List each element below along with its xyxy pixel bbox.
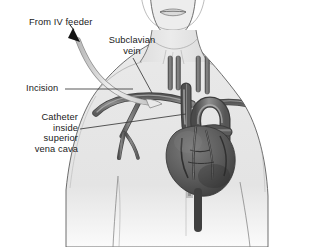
medical-illustration-figure: From IV feeder Subclavian vein Incision … <box>0 0 329 247</box>
label-catheter-inside-superior-vena-cava: Catheter inside superior vena cava <box>16 112 78 154</box>
label-from-iv-feeder: From IV feeder <box>29 17 92 28</box>
superior-vena-cava <box>184 88 187 126</box>
label-subclavian-vein: Subclavian vein <box>101 35 163 56</box>
label-incision: Incision <box>26 83 58 94</box>
